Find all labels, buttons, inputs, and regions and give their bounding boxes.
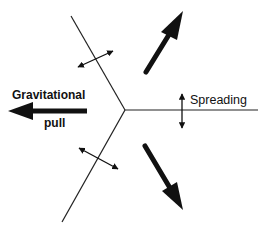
lower-right-motion-arrow-icon (145, 146, 183, 210)
spreading-label: Spreading (190, 94, 247, 107)
upper-right-motion-arrow-icon (146, 11, 183, 72)
plate-junction-diagram: Gravitational pull Spreading (0, 0, 260, 234)
pull-label: pull (44, 117, 65, 129)
diagram-canvas (0, 0, 260, 234)
upper-left-double-arrow-icon (78, 51, 113, 67)
gravitational-label: Gravitational (12, 89, 85, 101)
lower-left-ridge-line (62, 110, 125, 222)
lower-left-double-arrow-icon (79, 148, 118, 169)
